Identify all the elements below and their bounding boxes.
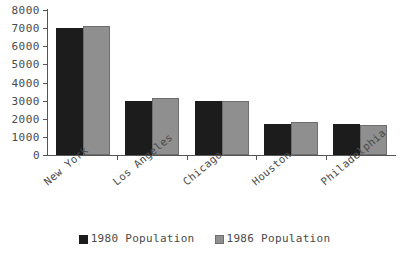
x-axis-tick [187, 155, 188, 160]
chart-legend: 1980 Population 1986 Population [0, 233, 409, 245]
legend-label-1986: 1986 Population [227, 233, 331, 245]
legend-item-1980[interactable]: 1980 Population [79, 233, 195, 245]
x-axis-tick [117, 155, 118, 160]
bar-new-york-1986-population[interactable] [83, 26, 110, 155]
bar-new-york-1980-population[interactable] [56, 28, 83, 155]
bar-chicago-1986-population[interactable] [222, 101, 249, 155]
x-axis-tick [326, 155, 327, 160]
x-axis-tick [256, 155, 257, 160]
y-axis-tick-label: 0 [33, 150, 40, 161]
y-axis-tick-label: 3000 [12, 96, 41, 107]
legend-label-1980: 1980 Population [91, 233, 195, 245]
y-axis-tick-label: 7000 [12, 23, 41, 34]
legend-item-1986[interactable]: 1986 Population [215, 233, 331, 245]
y-axis-tick [43, 155, 48, 156]
bar-houston-1986-population[interactable] [291, 122, 318, 155]
light-swatch-icon [215, 235, 224, 244]
bar-chicago-1980-population[interactable] [195, 101, 222, 155]
y-axis-tick-label: 4000 [12, 78, 41, 89]
y-axis-tick-label: 1000 [12, 132, 41, 143]
plot-area [48, 10, 395, 155]
y-axis-tick-label: 8000 [12, 5, 41, 16]
bar-chart: 010002000300040005000600070008000 New Yo… [0, 0, 409, 259]
dark-swatch-icon [79, 235, 88, 244]
y-axis-tick-label: 5000 [12, 59, 41, 70]
y-axis-tick-label: 2000 [12, 114, 41, 125]
y-axis-tick-label: 6000 [12, 41, 41, 52]
